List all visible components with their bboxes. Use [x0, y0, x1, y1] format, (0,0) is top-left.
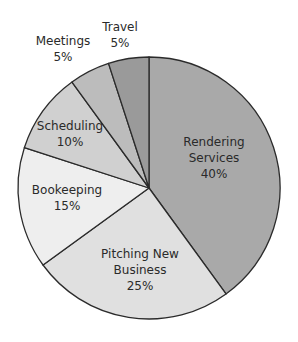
label-travel: Travel 5% — [102, 19, 138, 51]
label-percent: 10% — [37, 134, 103, 150]
label-pitching-new-business: Pitching New Business 25% — [101, 246, 179, 294]
label-percent: 40% — [183, 166, 244, 182]
label-text: Meetings — [36, 33, 91, 49]
label-text: Bookeeping — [32, 182, 102, 198]
label-percent: 15% — [32, 198, 102, 214]
label-percent: 5% — [102, 35, 138, 51]
label-percent: 25% — [101, 278, 179, 294]
label-text: Business — [101, 262, 179, 278]
label-bookeeping: Bookeeping 15% — [32, 182, 102, 214]
label-text: Pitching New — [101, 246, 179, 262]
label-text: Services — [183, 150, 244, 166]
label-text: Rendering — [183, 134, 244, 150]
label-percent: 5% — [36, 49, 91, 65]
label-text: Travel — [102, 19, 138, 35]
label-text: Scheduling — [37, 118, 103, 134]
label-meetings: Meetings 5% — [36, 33, 91, 65]
label-scheduling: Scheduling 10% — [37, 118, 103, 150]
label-rendering-services: Rendering Services 40% — [183, 134, 244, 182]
